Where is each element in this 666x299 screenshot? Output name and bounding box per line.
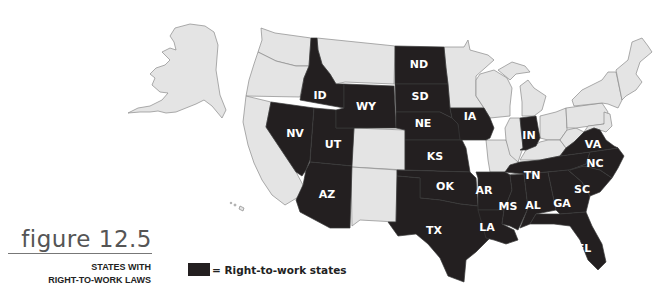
state-new-england [616, 38, 652, 100]
label-sd: SD [411, 90, 428, 103]
label-ut: UT [325, 138, 342, 151]
label-la: LA [479, 221, 495, 234]
label-ms: MS [499, 200, 518, 213]
legend-swatch [188, 263, 210, 276]
label-sc: SC [574, 183, 590, 196]
label-fl: FL [577, 242, 592, 255]
state-co [351, 128, 405, 170]
label-ia: IA [464, 110, 477, 123]
label-ne: NE [415, 117, 432, 130]
label-ok: OK [436, 180, 454, 193]
state-ny [572, 72, 622, 108]
label-id: ID [313, 89, 326, 102]
label-in: IN [522, 129, 535, 142]
label-ks: KS [427, 150, 444, 163]
state-hi [239, 206, 244, 211]
label-va: VA [585, 138, 602, 151]
us-map: ND SD NE KS OK TX ID WY NV UT AZ IA IN V… [0, 0, 666, 299]
label-nc: NC [586, 157, 603, 170]
state-ak [128, 24, 226, 118]
state-hi-island [230, 202, 232, 204]
figure-caption-line2: RIGHT-TO-WORK LAWS [48, 274, 151, 287]
label-ga: GA [553, 197, 571, 210]
figure-caption-line1: STATES WITH [48, 261, 151, 274]
state-fl [530, 212, 606, 270]
state-hi-island [234, 204, 236, 206]
label-tx: TX [426, 224, 443, 237]
label-tn: TN [524, 169, 541, 182]
label-nv: NV [286, 127, 304, 140]
state-nm [351, 167, 397, 226]
legend-label: = Right-to-work states [212, 264, 347, 276]
legend: = Right-to-work states [188, 263, 347, 276]
label-wy: WY [356, 100, 377, 113]
label-al: AL [525, 199, 541, 212]
figure-number: figure 12.5 [21, 226, 152, 252]
label-ar: AR [476, 184, 494, 197]
label-nd: ND [410, 58, 428, 71]
label-az: AZ [319, 188, 336, 201]
figure-divider [8, 253, 152, 254]
figure-caption: STATES WITH RIGHT-TO-WORK LAWS [48, 261, 151, 287]
